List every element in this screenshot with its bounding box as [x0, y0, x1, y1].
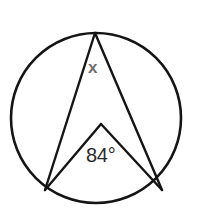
- radius-inner-to-right-base: [101, 124, 162, 190]
- geometry-figure-canvas: x 84°: [0, 0, 199, 221]
- chord-apex-to-right-base: [95, 33, 162, 190]
- geometry-figure-svg: [0, 0, 199, 221]
- radius-inner-to-left-base: [45, 124, 101, 190]
- chord-apex-to-left-base: [45, 33, 95, 190]
